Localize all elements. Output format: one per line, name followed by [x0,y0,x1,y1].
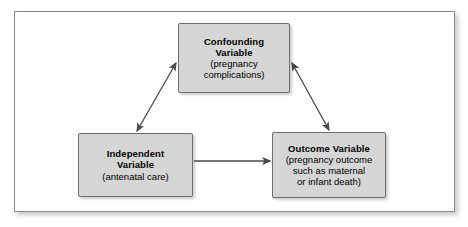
arrow-confounding-outcome [292,63,329,130]
arrow-confounding-independent [137,63,176,131]
node-confounding-title-line-1: Confounding [204,36,264,47]
node-confounding-sub-line-2: complications) [204,69,265,80]
node-outcome-sub-line-1: (pregnancy outcome [286,154,373,165]
node-independent-variable[interactable]: Independent Variable (antenatal care) [78,133,193,197]
node-confounding-variable[interactable]: Confounding Variable (pregnancy complica… [178,23,290,93]
node-independent-title-line-2: Variable [117,159,154,170]
node-independent-title-line-1: Independent [107,148,165,159]
diagram-canvas: Confounding Variable (pregnancy complica… [0,0,468,227]
node-confounding-title-line-2: Variable [215,47,252,58]
node-outcome-variable[interactable]: Outcome Variable (pregnancy outcome such… [272,132,386,198]
node-confounding-sub-line-1: (pregnancy [210,58,258,69]
node-outcome-sub-line-3: or infant death) [297,176,361,187]
node-independent-sub-line-1: (antenatal care) [102,171,169,182]
node-outcome-sub-line-2: such as maternal [293,165,365,176]
node-outcome-title-line-1: Outcome Variable [288,143,370,154]
